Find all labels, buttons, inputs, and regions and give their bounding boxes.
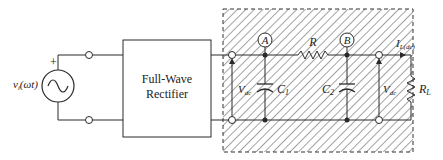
- terminal-in-top: [86, 52, 93, 59]
- node-b-label: B: [344, 34, 351, 46]
- load-resistor-label: RL: [418, 82, 431, 97]
- resistor-r-label: R: [308, 35, 317, 49]
- terminal-in-bottom: [86, 117, 93, 124]
- node-c1-bottom: [263, 118, 268, 123]
- wire-source-top: [58, 55, 85, 70]
- node-c2-bottom: [345, 118, 350, 123]
- terminal-out-top: [376, 52, 383, 59]
- source-label: vi(ωt): [13, 78, 38, 92]
- ac-source-icon: [42, 70, 74, 102]
- terminal-out-bottom: [376, 117, 383, 124]
- wire-source-bottom: [58, 102, 85, 120]
- rectifier-label-line1: Full-Wave: [142, 72, 192, 86]
- terminal-filter-in-top: [229, 52, 236, 59]
- rectifier-label-line2: Rectifier: [146, 87, 188, 101]
- filter-region: [223, 9, 413, 152]
- polarity-plus: +: [50, 55, 57, 69]
- node-a-label: A: [261, 34, 269, 46]
- terminal-filter-in-bottom: [229, 117, 236, 124]
- circuit-diagram: + vi(ωt) Full-Wave Rectifier Vdc A C1: [0, 0, 443, 160]
- rectifier-block: Full-Wave Rectifier: [123, 40, 211, 137]
